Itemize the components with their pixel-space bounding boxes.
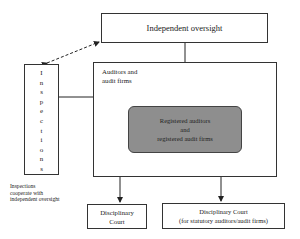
inspections-letter: n <box>40 155 44 165</box>
registered-label-line: Registered auditors <box>160 116 210 125</box>
note-line: cooperate with <box>10 190 80 197</box>
independent-oversight-box: Independent oversight <box>101 13 268 43</box>
inspections-note: Inspections cooperate with independent o… <box>10 183 80 203</box>
inspections-letter: n <box>40 79 44 89</box>
inspections-letter: I <box>40 69 42 79</box>
note-line: independent oversight <box>10 196 80 203</box>
registered-auditors-box: Registered auditors and registered audit… <box>128 106 242 153</box>
inspections-letter: e <box>40 107 43 117</box>
note-line: Inspections <box>10 183 80 190</box>
registered-label-line: and <box>180 125 189 134</box>
inspections-letter: i <box>41 136 43 146</box>
court-label-line: Court <box>109 217 124 226</box>
inspections-box: I n s p e c t i o n s <box>24 64 59 175</box>
inspections-letter: s <box>40 165 43 175</box>
court-label-line: Disciplinary Court <box>199 207 248 216</box>
court-label-line: (for statutory auditors/audit firms) <box>179 216 268 225</box>
inspections-letter: o <box>40 146 44 156</box>
inspections-letter: s <box>40 88 43 98</box>
inspections-letter: p <box>40 98 44 108</box>
auditors-label-line: audit firms <box>102 77 137 86</box>
auditors-label: Auditors and audit firms <box>102 68 137 85</box>
court-label-line: Disciplinary <box>100 208 134 217</box>
auditors-label-line: Auditors and <box>102 68 137 77</box>
disciplinary-court-box: Disciplinary Court <box>87 204 147 229</box>
inspections-letter: t <box>41 127 43 137</box>
inspections-letter: c <box>40 117 43 127</box>
registered-label-line: registered audit firms <box>157 134 213 143</box>
dashed-bidirectional-arrow <box>47 42 99 63</box>
independent-oversight-label: Independent oversight <box>147 23 223 33</box>
disciplinary-court-statutory-box: Disciplinary Court (for statutory audito… <box>162 203 285 229</box>
